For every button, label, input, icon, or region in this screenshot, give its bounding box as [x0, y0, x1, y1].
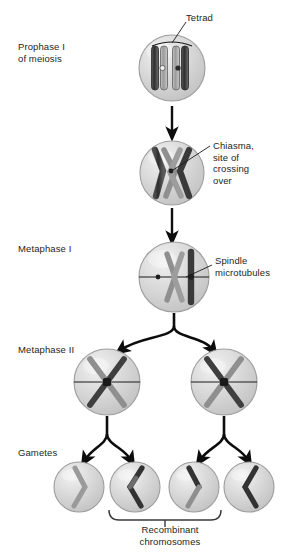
- arrows-metaphase-ii-left-to-gametes: [85, 416, 131, 460]
- stage-label-prophase-i: Prophase I of meiosis: [18, 41, 65, 64]
- cell-chiasma: [140, 141, 204, 205]
- diagram-canvas: [0, 0, 291, 559]
- stage-label-metaphase-ii: Metaphase II: [18, 344, 74, 356]
- gamete-1: [54, 462, 104, 512]
- recombinant-bracket: [109, 510, 221, 520]
- callout-tetrad: Tetrad: [186, 12, 213, 24]
- cell-metaphase-ii-right: [191, 349, 257, 415]
- stage-label-metaphase-i: Metaphase I: [18, 243, 71, 255]
- cell-metaphase-ii-left: [74, 349, 140, 415]
- meiosis-diagram: Prophase I of meiosis Metaphase I Metaph…: [0, 0, 291, 559]
- callout-spindle-microtubules: Spindle microtubules: [215, 255, 270, 278]
- chiasma-point: [169, 169, 174, 174]
- cell-metaphase-i: [139, 242, 209, 312]
- gamete-3: [169, 462, 219, 512]
- arrows-metaphase-ii-right-to-gametes: [200, 416, 248, 460]
- gamete-4: [224, 462, 274, 512]
- callout-chiasma: Chiasma, site of crossing over: [213, 140, 254, 186]
- cell-prophase-i: [139, 35, 205, 101]
- stage-label-gametes: Gametes: [18, 447, 57, 459]
- arrows-metaphase-i-to-ii: [121, 313, 213, 350]
- label-recombinant-chromosomes: Recombinant chromosomes: [110, 524, 230, 547]
- gamete-2: [110, 462, 160, 512]
